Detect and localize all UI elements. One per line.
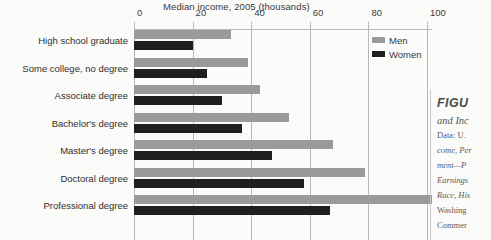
chart-legend: MenWomen [372, 34, 428, 62]
bar-men [134, 30, 231, 39]
category-label: Some college, no degree [22, 63, 128, 74]
bar-men [134, 168, 365, 177]
bar-women [134, 151, 272, 160]
bar-women [134, 41, 193, 50]
x-tick-label-40: 40 [254, 7, 265, 18]
legend-label: Women [389, 49, 422, 60]
bar-men [134, 195, 432, 204]
caption-divider [430, 90, 431, 240]
caption-source-line: ment—P [437, 160, 491, 171]
category-label: Bachelor's degree [52, 118, 128, 129]
caption-source-line: Race, His [437, 190, 491, 201]
figure-subtitle: and Inc [437, 115, 491, 126]
bar-group [134, 85, 432, 107]
bar-women [134, 124, 242, 133]
caption-source-line: come, Per [437, 145, 491, 156]
x-tick-label-100: 100 [430, 7, 446, 18]
chart-page: Median income, 2005 (thousands) High sch… [0, 0, 491, 240]
bar-group [134, 113, 432, 135]
figure-heading: FIGU [437, 96, 491, 110]
bar-women [134, 96, 222, 105]
bar-group [134, 195, 432, 217]
category-label: Master's degree [60, 145, 128, 156]
legend-item-men[interactable]: Men [372, 34, 428, 46]
figure-caption: FIGU and Inc Data: U.come, Perment—PEarn… [437, 96, 491, 240]
chart-title: Median income, 2005 (thousands) [163, 1, 310, 12]
x-tick-label-20: 20 [196, 7, 207, 18]
x-tick-label-0: 0 [137, 7, 142, 18]
legend-swatch-icon [372, 37, 385, 43]
caption-source-block: Data: U.come, Perment—PEarningsRace, His… [437, 130, 491, 231]
bar-men [134, 113, 289, 122]
legend-label: Men [389, 35, 407, 46]
category-label-column: High school graduateSome college, no deg… [0, 22, 134, 240]
caption-source-line: Commer [437, 220, 491, 231]
caption-source-line: Earnings [437, 175, 491, 186]
legend-item-women[interactable]: Women [372, 48, 428, 60]
caption-source-line: Data: U. [437, 130, 491, 141]
category-label: Professional degree [44, 200, 129, 211]
x-tick-label-60: 60 [313, 7, 324, 18]
category-label: High school graduate [38, 35, 128, 46]
bar-group [134, 140, 432, 162]
bar-men [134, 58, 248, 67]
bar-women [134, 179, 304, 188]
bar-men [134, 85, 260, 94]
bar-men [134, 140, 333, 149]
bar-women [134, 69, 207, 78]
category-label: Doctoral degree [60, 173, 128, 184]
x-tick-label-80: 80 [371, 7, 382, 18]
legend-swatch-icon [372, 51, 385, 57]
caption-source-line: Washing [437, 205, 491, 216]
category-label: Associate degree [55, 90, 128, 101]
bar-women [134, 206, 330, 215]
bar-group [134, 168, 432, 190]
